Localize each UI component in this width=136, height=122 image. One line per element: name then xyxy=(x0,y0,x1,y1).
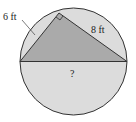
label-6ft: 6 ft xyxy=(3,11,17,22)
label-hypotenuse-unknown: ? xyxy=(70,68,75,79)
circle-triangle-diagram: 6 ft 8 ft ? xyxy=(0,0,136,122)
label-8ft: 8 ft xyxy=(91,24,105,35)
